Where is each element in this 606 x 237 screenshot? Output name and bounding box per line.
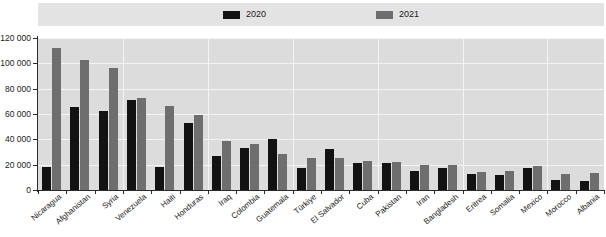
bar-2021 [109, 68, 118, 190]
x-tick-label: Morocco [544, 193, 573, 219]
x-tick-label: Iraq [218, 193, 234, 208]
legend-item-2021: 2021 [376, 10, 419, 19]
bar-2021 [590, 173, 599, 190]
legend-label-2020: 2020 [246, 10, 266, 19]
bar-2021 [335, 158, 344, 190]
bars-layer [38, 38, 604, 190]
bar-group [463, 38, 491, 190]
bar-2020 [438, 168, 447, 190]
chart-legend: 2020 2021 [38, 3, 604, 26]
x-tick-label: Haiti [159, 193, 176, 209]
x-tick-label: Mexico [520, 193, 545, 215]
bar-2020 [268, 139, 277, 190]
bar-2021 [307, 158, 316, 190]
bar-2021 [52, 48, 61, 190]
x-tick-label: Syria [101, 193, 120, 211]
x-tick-label: Iran [416, 193, 432, 208]
bar-group [38, 38, 66, 190]
bar-group [123, 38, 151, 190]
x-tick-label: Somalia [489, 193, 516, 218]
bar-2020 [382, 163, 391, 190]
bar-group [180, 38, 208, 190]
bar-2021 [278, 154, 287, 190]
bar-2020 [551, 180, 560, 190]
bar-2020 [70, 107, 79, 190]
bar-2020 [240, 148, 249, 190]
bar-group [576, 38, 604, 190]
bar-2021 [165, 106, 174, 190]
bar-group [378, 38, 406, 190]
x-tick-label: Pakistan [374, 193, 403, 219]
bar-2021 [250, 144, 259, 190]
bar-2020 [410, 171, 419, 190]
bar-2020 [297, 168, 306, 190]
bar-group [264, 38, 292, 190]
bar-2021 [420, 165, 429, 190]
bar-2020 [127, 100, 136, 190]
bar-2021 [222, 141, 231, 190]
bar-group [406, 38, 434, 190]
bar-2020 [99, 111, 108, 190]
bar-group [547, 38, 575, 190]
bar-2021 [477, 172, 486, 190]
bar-group [151, 38, 179, 190]
bar-2020 [495, 175, 504, 190]
bar-chart-figure: 2020 2021 120 000100 00080 00060 00040 0… [0, 0, 606, 237]
x-tick-label: Honduras [173, 193, 205, 221]
bar-2020 [155, 167, 164, 190]
y-tick-label: 0 [26, 186, 31, 195]
y-tick-label: 60 000 [5, 110, 31, 119]
y-axis-labels: 120 000100 00080 00060 00040 00020 0000 [0, 0, 33, 237]
bar-group [321, 38, 349, 190]
bar-2020 [212, 156, 221, 190]
y-tick-label: 20 000 [5, 160, 31, 169]
bar-group [293, 38, 321, 190]
x-tick-label: Venezuela [115, 193, 149, 223]
bar-2020 [353, 163, 362, 190]
bar-2021 [561, 174, 570, 190]
legend-label-2021: 2021 [399, 10, 419, 19]
bar-2020 [523, 168, 532, 190]
bar-group [208, 38, 236, 190]
x-tick-mark [604, 190, 605, 194]
bar-2020 [325, 149, 334, 190]
x-tick-label: Cuba [355, 193, 375, 211]
bar-2020 [580, 181, 589, 190]
bar-group [236, 38, 264, 190]
bar-2021 [448, 165, 457, 190]
bar-2021 [363, 161, 372, 190]
bar-group [66, 38, 94, 190]
x-axis-labels: NicaraguaAfghanistanSyriaVenezuelaHaitiH… [38, 193, 604, 237]
bar-2020 [184, 123, 193, 190]
bar-group [491, 38, 519, 190]
y-tick-label: 120 000 [0, 34, 31, 43]
bar-group [349, 38, 377, 190]
bar-group [434, 38, 462, 190]
legend-swatch-2021-icon [376, 11, 393, 19]
bar-2020 [42, 167, 51, 190]
legend-swatch-2020-icon [223, 11, 240, 19]
y-tick-label: 80 000 [5, 84, 31, 93]
bar-2021 [194, 115, 203, 190]
bar-group [519, 38, 547, 190]
legend-item-2020: 2020 [223, 10, 266, 19]
bar-2020 [467, 174, 476, 190]
y-tick-label: 40 000 [5, 135, 31, 144]
bar-2021 [533, 166, 542, 190]
bar-2021 [80, 60, 89, 190]
bar-group [95, 38, 123, 190]
bar-2021 [392, 162, 401, 191]
bar-2021 [137, 98, 146, 190]
y-tick-label: 100 000 [0, 59, 31, 68]
x-tick-label: Eritrea [465, 193, 488, 214]
bar-2021 [505, 171, 514, 190]
x-tick-label: Albania [576, 193, 602, 216]
